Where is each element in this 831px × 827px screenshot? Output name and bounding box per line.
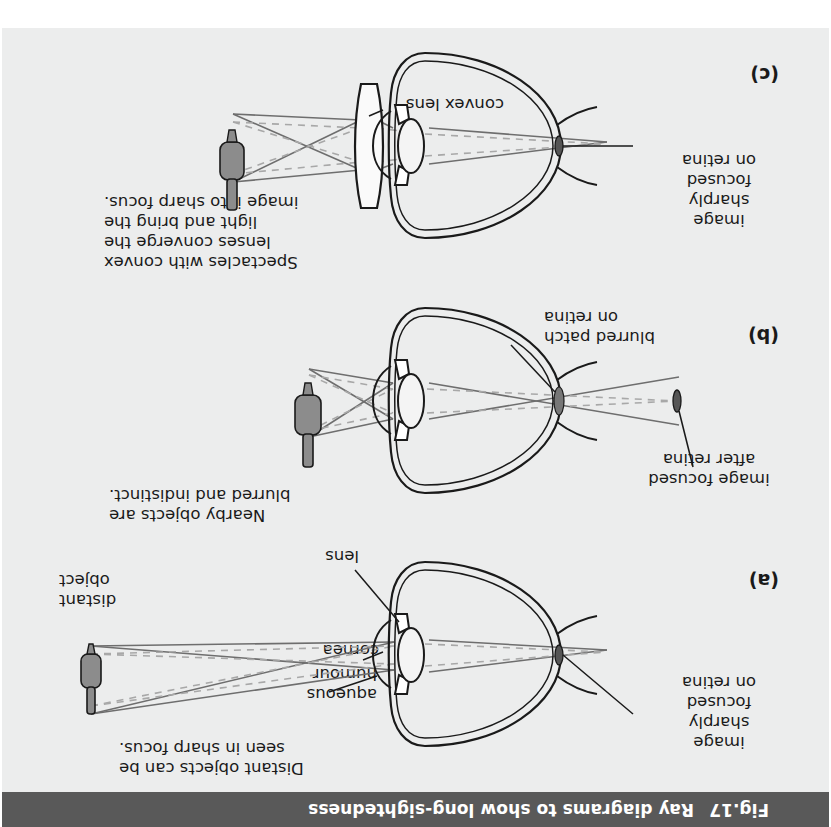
figure-number: Fig.17 — [709, 800, 769, 820]
panel-a-eye-lens — [398, 628, 424, 682]
panel-c-raydiagram — [2, 28, 829, 282]
figure-body: Fig.17 Ray diagrams to show long-sighted… — [2, 28, 829, 827]
panel-b-nearby-object — [295, 383, 321, 467]
panel-b-eye-lens — [398, 374, 424, 428]
panel-c: (c) Spectacles with convex lenses conver… — [2, 28, 829, 282]
panel-b-leader-lines — [511, 345, 693, 467]
figure-page: 88 Fig.17 Ray diagrams to show long-sigh… — [0, 0, 831, 827]
figure-title-bar: Fig.17 Ray diagrams to show long-sighted… — [2, 792, 829, 827]
panel-a-distant-object — [81, 644, 101, 714]
panel-b-raydiagram — [2, 282, 829, 537]
panel-b-image-after-retina — [673, 390, 681, 412]
panel-a: (a) Distant objects can be seen in sharp… — [2, 537, 829, 792]
panel-a-retinal-image — [555, 645, 563, 665]
panel-a-solid-rays — [91, 640, 607, 714]
panel-c-eye-lens — [398, 119, 424, 173]
panel-c-convex-lens — [355, 84, 383, 208]
panel-b-dashed-rays — [309, 375, 677, 431]
figure-title: Ray diagrams to show long-sightedness — [308, 800, 694, 820]
panel-b-blurred-patch — [554, 387, 564, 415]
panel-b: (b) Nearby objects are blurred and indis… — [2, 282, 829, 537]
panel-a-raydiagram — [2, 537, 829, 792]
rotated-figure-container: Fig.17 Ray diagrams to show long-sighted… — [0, 0, 831, 827]
panel-c-retinal-image — [555, 136, 563, 156]
panel-c-object — [220, 130, 244, 210]
